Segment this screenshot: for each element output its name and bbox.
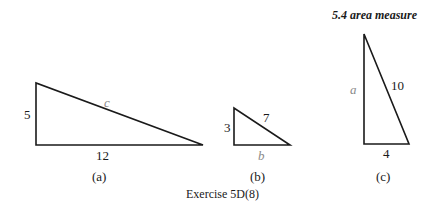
triangle-a xyxy=(36,83,203,145)
triangle-b-side-vertical: 3 xyxy=(224,120,231,136)
triangle-c-caption: (c) xyxy=(376,169,390,185)
triangle-b xyxy=(234,108,290,145)
exercise-caption: Exercise 5D(8) xyxy=(186,187,259,202)
triangle-b-hypotenuse: 7 xyxy=(263,110,270,126)
triangle-c-side-vertical: a xyxy=(350,82,357,98)
triangle-a-hypotenuse: c xyxy=(104,95,110,111)
triangle-a-caption: (a) xyxy=(92,169,106,185)
triangle-a-side-vertical: 5 xyxy=(24,107,31,123)
triangle-c-hypotenuse: 10 xyxy=(391,78,404,94)
triangle-b-caption: (b) xyxy=(250,169,265,185)
triangle-b-side-horizontal: b xyxy=(258,148,265,164)
triangle-a-side-horizontal: 12 xyxy=(96,148,109,164)
triangle-c-side-horizontal: 4 xyxy=(383,146,390,162)
